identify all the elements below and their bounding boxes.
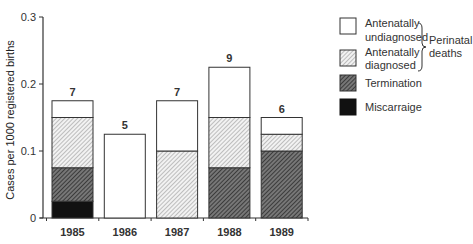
legend-swatch-undiagnosed [340, 18, 356, 34]
bar-1986: 5 [104, 119, 145, 218]
legend-label-termination: Termination [365, 77, 422, 89]
x-tick-label: 1985 [60, 226, 84, 238]
legend-swatch-diagnosed [340, 50, 356, 66]
y-tick-label: 0.2 [21, 78, 36, 90]
bar-segment [209, 118, 250, 168]
bar-segment [104, 134, 145, 218]
legend: Antenatally undiagnosed Antenatally diag… [340, 17, 472, 115]
bar-segment [157, 101, 198, 151]
bar-total-label: 7 [69, 86, 75, 98]
bar-segment [52, 118, 93, 168]
bars: 75796 [52, 52, 302, 218]
bar-segment [261, 151, 302, 218]
bar-segment [52, 168, 93, 202]
y-tick-label: 0.3 [21, 11, 36, 23]
legend-swatch-termination [340, 75, 356, 91]
bar-1987: 7 [157, 86, 198, 218]
x-tick-label: 1986 [113, 226, 137, 238]
bar-1989: 6 [261, 103, 302, 219]
y-tick-label: 0.1 [21, 145, 36, 157]
x-tick-label: 1989 [269, 226, 293, 238]
bar-segment [209, 67, 250, 117]
bar-total-label: 7 [174, 86, 180, 98]
bar-1985: 7 [52, 86, 93, 218]
bar-total-label: 6 [279, 103, 285, 115]
bar-segment [52, 201, 93, 218]
bar-segment [261, 134, 302, 151]
bar-segment [261, 118, 302, 135]
legend-label-diagnosed-1: Antenatally [365, 46, 420, 58]
bar-total-label: 5 [122, 119, 128, 131]
stacked-bar-chart: Cases per 1000 registered births 00.10.2… [0, 0, 473, 244]
bar-1988: 9 [209, 52, 250, 218]
y-axis-label: Cases per 1000 registered births [4, 40, 16, 200]
legend-label-diagnosed-2: diagnosed [365, 59, 416, 71]
x-tick-label: 1988 [217, 226, 241, 238]
bar-segment [157, 151, 198, 218]
legend-bracket-label-1: Perinatal [429, 34, 472, 46]
bar-total-label: 9 [226, 52, 232, 64]
bar-segment [52, 101, 93, 118]
legend-bracket-label-2: deaths [429, 47, 463, 59]
y-tick-label: 0 [30, 212, 36, 224]
legend-label-undiagnosed-2: undiagnosed [365, 31, 428, 43]
legend-label-miscarriage: Miscarraige [365, 101, 422, 113]
legend-label-undiagnosed-1: Antenatally [365, 17, 420, 29]
bar-segment [209, 168, 250, 218]
x-tick-label: 1987 [165, 226, 189, 238]
legend-swatch-miscarriage [340, 99, 356, 115]
x-tick-labels: 19851986198719881989 [60, 226, 294, 238]
